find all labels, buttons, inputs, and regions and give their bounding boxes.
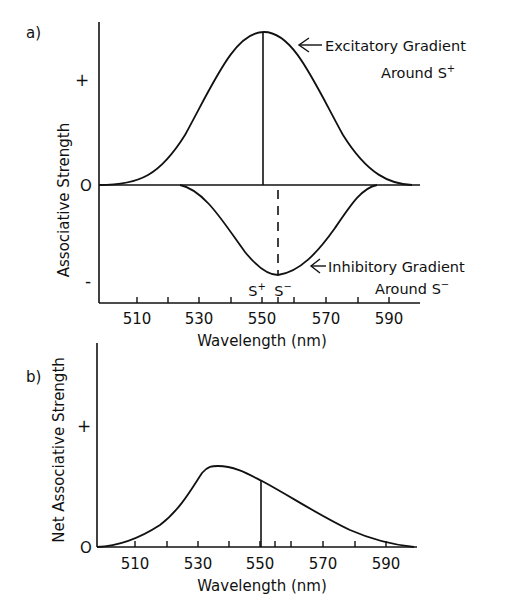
panel-b-y-zero: O: [80, 539, 92, 557]
panel-a-x-ticks: [137, 297, 389, 303]
panel-a-x-title: Wavelength (nm): [197, 332, 327, 350]
panel-a-y-plus: +: [75, 70, 89, 90]
excitatory-arrow-icon: [299, 38, 322, 52]
panel-a-tick-530: 530: [185, 310, 214, 328]
inhibitory-annotation-line1: Inhibitory Gradient: [328, 259, 465, 275]
panel-b: b) + O Net Associative Strength 510 530 …: [26, 343, 417, 595]
panel-b-label: b): [26, 368, 41, 386]
panel-a-y-minus: -: [85, 271, 91, 291]
panel-b-tick-570: 570: [309, 555, 338, 573]
panel-b-tick-590: 590: [372, 555, 401, 573]
panel-a-label: a): [26, 24, 41, 42]
panel-a-tick-590: 590: [375, 310, 404, 328]
panel-b-tick-530: 530: [184, 555, 213, 573]
panel-b-x-title: Wavelength (nm): [197, 577, 327, 595]
panel-a-y-title: Associative Strength: [55, 123, 73, 277]
panel-b-y-title: Net Associative Strength: [50, 357, 68, 543]
excitatory-annotation-line1: Excitatory Gradient: [325, 38, 466, 54]
panel-b-tick-510: 510: [121, 555, 150, 573]
panel-a: a) + O - Associative Strength 510 530 55…: [26, 22, 466, 350]
s-plus-label: S+: [248, 281, 266, 299]
excitatory-annotation-line2: Around S+: [381, 63, 455, 81]
inhibitory-arrow-icon: [311, 259, 326, 273]
panel-b-y-plus: +: [77, 416, 91, 436]
excitatory-gradient-curve: [99, 32, 412, 185]
panel-a-tick-510: 510: [123, 310, 152, 328]
panel-a-tick-550: 550: [248, 310, 277, 328]
panel-a-tick-570: 570: [312, 310, 341, 328]
s-minus-label: S−: [274, 281, 292, 299]
inhibitory-annotation-line2: Around S−: [375, 279, 449, 297]
net-gradient-curve: [97, 466, 414, 547]
figure: a) + O - Associative Strength 510 530 55…: [0, 0, 505, 612]
panel-a-y-zero: O: [80, 177, 92, 195]
panel-b-tick-550: 550: [246, 555, 275, 573]
